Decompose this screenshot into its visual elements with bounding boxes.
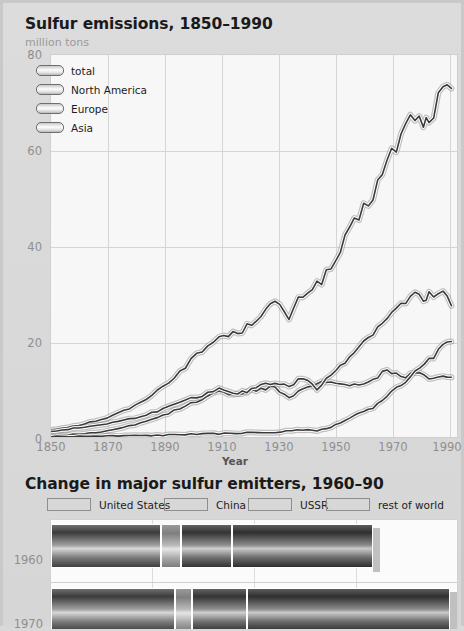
legend-swatch-icon — [326, 498, 370, 511]
bar-segment[interactable] — [51, 524, 161, 568]
legend-swatch-icon — [36, 65, 64, 76]
legend-item-europe[interactable]: Europe — [36, 99, 147, 118]
legend-item-rest-of-world[interactable]: rest of world — [326, 498, 444, 511]
legend-item-north-america[interactable]: North America — [36, 80, 147, 99]
x-tick-1910: 1910 — [207, 440, 236, 454]
sulfur-emissions-line-chart: Sulfur emissions, 1850–1990 million tons… — [3, 3, 464, 465]
legend-item-ussr[interactable]: USSR — [248, 498, 328, 511]
x-tick-1870: 1870 — [93, 440, 122, 454]
legend-swatch-icon — [248, 498, 292, 511]
bar-segment[interactable] — [232, 524, 373, 568]
x-tick-1930: 1930 — [264, 440, 293, 454]
chart1-title: Sulfur emissions, 1850–1990 — [25, 15, 273, 33]
bar-shadow — [450, 592, 457, 629]
legend-label: North America — [71, 84, 147, 96]
legend-swatch-icon — [47, 498, 91, 511]
y-tick-60: 60 — [27, 144, 42, 158]
y-tick-20: 20 — [27, 336, 42, 350]
bar-row-label-1960: 1960 — [3, 553, 43, 567]
x-tick-1950: 1950 — [321, 440, 350, 454]
bar-shadow — [373, 528, 380, 572]
bar-segment[interactable] — [181, 524, 232, 568]
y-tick-80: 80 — [27, 48, 42, 62]
legend-swatch-icon — [164, 498, 208, 511]
bar-row-label-1970: 1970 — [3, 617, 43, 631]
legend-item-total[interactable]: total — [36, 61, 147, 80]
legend-item-china[interactable]: China — [164, 498, 246, 511]
x-tick-1890: 1890 — [150, 440, 179, 454]
legend-item-asia[interactable]: Asia — [36, 118, 147, 137]
sulfur-emitters-bar-chart: Change in major sulfur emitters, 1960–90… — [3, 465, 464, 629]
chart1-legend: total North America Europe Asia — [36, 61, 147, 137]
chart2-legend: United States China USSR rest of world — [47, 498, 464, 514]
legend-label: rest of world — [378, 499, 444, 511]
legend-swatch-icon — [36, 122, 64, 133]
legend-swatch-icon — [36, 84, 64, 95]
bar-segment[interactable] — [161, 524, 181, 568]
legend-item-united-states[interactable]: United States — [47, 498, 170, 511]
y-tick-40: 40 — [27, 240, 42, 254]
legend-label: Europe — [71, 103, 108, 115]
legend-label: China — [216, 499, 246, 511]
legend-swatch-icon — [36, 103, 64, 114]
bar-segment[interactable] — [192, 588, 247, 629]
chart2-plot-area — [50, 519, 458, 629]
legend-label: total — [71, 65, 95, 77]
chart2-title: Change in major sulfur emitters, 1960–90 — [25, 475, 384, 493]
x-tick-1990: 1990 — [432, 440, 461, 454]
bar-segment[interactable] — [247, 588, 450, 629]
x-tick-1970: 1970 — [378, 440, 407, 454]
legend-label: United States — [99, 499, 170, 511]
row-separator — [51, 582, 457, 583]
bar-segment[interactable] — [51, 588, 175, 629]
legend-label: Asia — [71, 122, 93, 134]
legend-label: USSR — [300, 499, 328, 511]
x-tick-1850: 1850 — [36, 440, 65, 454]
bar-segment[interactable] — [175, 588, 193, 629]
